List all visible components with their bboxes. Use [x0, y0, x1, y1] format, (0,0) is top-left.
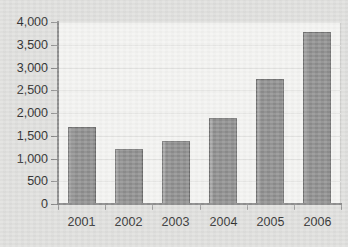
y-axis-tick	[51, 22, 58, 23]
bar-2002	[115, 149, 143, 204]
x-axis-tick	[341, 205, 342, 210]
x-axis-tick-label-2004: 2004	[200, 216, 247, 229]
x-axis-tick-label-2005: 2005	[247, 216, 294, 229]
y-axis-tick	[51, 68, 58, 69]
y-axis-tick	[51, 181, 58, 182]
bar-2006	[303, 32, 331, 204]
x-axis-tick	[200, 205, 201, 210]
x-axis-tick-label-2006: 2006	[294, 216, 341, 229]
y-axis-tick-label: 3,500	[0, 39, 48, 52]
bar-2004	[209, 118, 237, 204]
x-axis-tick-label-2002: 2002	[105, 216, 152, 229]
y-axis-tick-label: 4,000	[0, 16, 48, 29]
y-axis-tick-label: 3,000	[0, 62, 48, 75]
x-axis-tick	[294, 205, 295, 210]
x-axis-tick	[152, 205, 153, 210]
x-axis-tick-label-2001: 2001	[58, 216, 105, 229]
y-axis-tick	[51, 159, 58, 160]
bar-2003	[162, 141, 190, 204]
y-axis-tick-label: 2,500	[0, 84, 48, 97]
y-axis-tick-label: 0	[0, 198, 48, 211]
y-axis-tick	[51, 204, 58, 205]
gridline	[58, 113, 341, 114]
y-axis-tick	[51, 113, 58, 114]
gridline	[58, 45, 341, 46]
bar-2001	[68, 127, 96, 204]
y-axis-tick-label: 500	[0, 175, 48, 188]
y-axis-tick	[51, 90, 58, 91]
y-axis-tick-label: 2,000	[0, 107, 48, 120]
x-axis-tick	[247, 205, 248, 210]
gridline	[58, 68, 341, 69]
y-axis-tick	[51, 45, 58, 46]
gridline	[58, 136, 341, 137]
y-axis-tick-label: 1,000	[0, 153, 48, 166]
y-axis-tick	[51, 136, 58, 137]
x-axis-tick	[58, 205, 59, 210]
gridline	[58, 90, 341, 91]
bar-2005	[256, 79, 284, 204]
bar-chart-figure: 05001,0001,5002,0002,5003,0003,5004,000 …	[0, 0, 348, 247]
gridline	[58, 159, 341, 160]
gridline	[58, 22, 341, 23]
y-axis-tick-label: 1,500	[0, 130, 48, 143]
gridline	[58, 181, 341, 182]
x-axis-tick-label-2003: 2003	[152, 216, 199, 229]
x-axis-tick	[105, 205, 106, 210]
